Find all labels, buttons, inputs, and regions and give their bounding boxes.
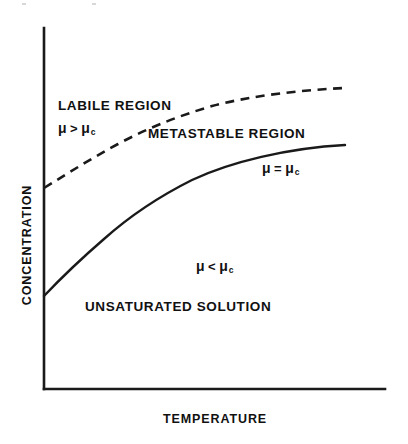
label-metastable-region: METASTABLE REGION [148,126,305,141]
x-axis-label: TEMPERATURE [44,412,386,426]
mu-symbol: μ [219,258,228,274]
phase-diagram-figure: LABILE REGION μ>μc METASTABLE REGION μ=μ… [0,0,408,444]
greater-than-operator: > [67,121,81,136]
mu-symbol: μ [81,120,90,136]
mu-symbol: μ [196,258,205,274]
label-unsaturated-solution: UNSATURATED SOLUTION [85,299,271,314]
label-mu-greater-than-mu-c: μ>μc [58,120,95,136]
mu-symbol: μ [262,160,271,176]
equals-operator: = [271,161,285,176]
label-labile-region: LABILE REGION [58,98,172,113]
label-mu-less-than-mu-c: μ<μc [196,258,233,274]
label-mu-equals-mu-c: μ=μc [262,160,299,176]
mu-subscript-c: c [229,265,234,275]
mu-subscript-c: c [295,167,300,177]
mu-symbol: μ [58,120,67,136]
mu-subscript-c: c [91,127,96,137]
plot-area [0,0,408,444]
less-than-operator: < [205,259,219,274]
mu-symbol: μ [285,160,294,176]
y-axis-label: CONCENTRATION [20,170,34,320]
